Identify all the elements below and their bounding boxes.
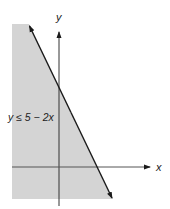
inequality-label: y ≤ 5 − 2x: [7, 111, 54, 123]
inequality-graph: y x y ≤ 5 − 2x: [0, 0, 170, 209]
x-axis-label: x: [155, 161, 162, 173]
y-axis-label: y: [55, 11, 63, 23]
